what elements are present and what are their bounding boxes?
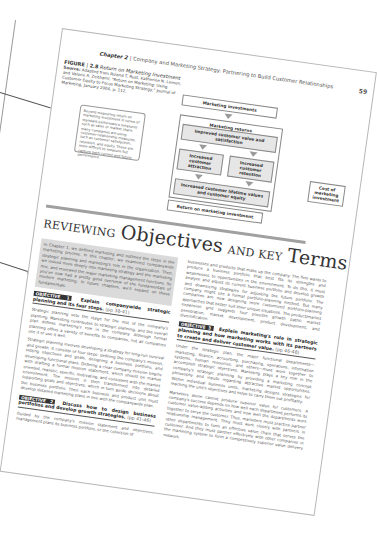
title-prefix: REVIEWING — [43, 217, 117, 240]
title-and-key: AND KEY — [227, 243, 283, 263]
down-arrow-icon — [244, 181, 253, 187]
down-arrow-icon — [248, 151, 257, 157]
left-column: In Chapter 1, we defined marketing and o… — [15, 238, 178, 443]
down-arrow-icon — [194, 174, 203, 180]
chapter-label: Chapter 2 — [99, 51, 128, 61]
page-number: 59 — [358, 87, 367, 95]
right-column: businesses and products that make up the… — [163, 259, 327, 460]
marketing-returns-box: Marketing returns Improved customer valu… — [168, 114, 283, 212]
cost-of-marketing-box: Cost of marketing investment — [307, 181, 346, 207]
textbook-page: Chapter 2 | Company and Marketing Strate… — [0, 28, 377, 516]
figure-caption: FIGURE | 2.8 Return on Marketing Investm… — [61, 60, 183, 101]
down-arrow-icon — [224, 113, 233, 119]
title-terms: Terms — [286, 244, 349, 274]
down-arrow-icon — [198, 144, 207, 150]
roi-diagram: Marketing investments Marketing returns … — [167, 94, 314, 228]
figure-callout: Beyond measuring return on marketing inv… — [74, 104, 146, 161]
